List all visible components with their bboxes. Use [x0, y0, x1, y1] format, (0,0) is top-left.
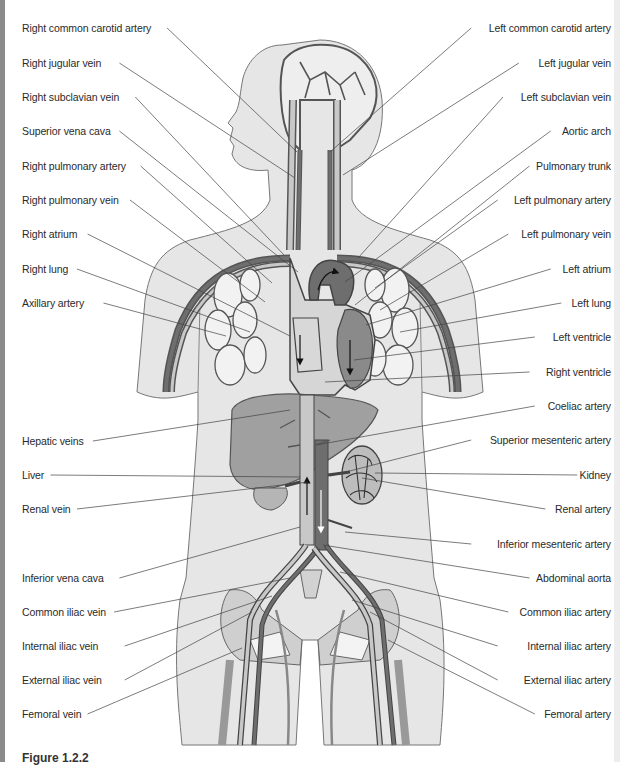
label-right-pulmonary-vein: Right pulmonary vein: [22, 194, 119, 206]
label-left-ventricle: Left ventricle: [553, 331, 611, 343]
label-left-pulmonary-artery: Left pulmonary artery: [514, 194, 611, 206]
label-right-atrium: Right atrium: [22, 228, 77, 240]
label-inferior-mesenteric-artery: Inferior mesenteric artery: [497, 538, 611, 550]
label-right-common-carotid-artery: Right common carotid artery: [22, 22, 151, 34]
label-internal-iliac-vein: Internal iliac vein: [22, 640, 98, 652]
label-inferior-vena-cava: Inferior vena cava: [22, 572, 104, 584]
label-right-subclavian-vein: Right subclavian vein: [22, 91, 119, 103]
label-kidney: Kidney: [579, 469, 611, 481]
label-abdominal-aorta: Abdominal aorta: [536, 572, 611, 584]
kidney: [342, 446, 382, 504]
figure-caption: Figure 1.2.2: [22, 751, 89, 765]
label-left-lung: Left lung: [572, 297, 611, 309]
label-femoral-artery: Femoral artery: [544, 708, 611, 720]
label-right-ventricle: Right ventricle: [546, 366, 611, 378]
label-left-subclavian-vein: Left subclavian vein: [521, 91, 611, 103]
label-liver: Liver: [22, 469, 44, 481]
label-right-jugular-vein: Right jugular vein: [22, 57, 101, 69]
label-common-iliac-vein: Common iliac vein: [22, 606, 106, 618]
label-superior-mesenteric-artery: Superior mesenteric artery: [490, 434, 611, 446]
label-renal-artery: Renal artery: [555, 503, 611, 515]
label-left-pulmonary-vein: Left pulmonary vein: [521, 228, 611, 240]
label-pulmonary-trunk: Pulmonary trunk: [536, 160, 611, 172]
label-right-pulmonary-artery: Right pulmonary artery: [22, 160, 126, 172]
label-renal-vein: Renal vein: [22, 503, 71, 515]
label-femoral-vein: Femoral vein: [22, 708, 82, 720]
label-axillary-artery: Axillary artery: [22, 297, 84, 309]
label-coeliac-artery: Coeliac artery: [548, 400, 611, 412]
label-superior-vena-cava: Superior vena cava: [22, 125, 111, 137]
label-hepatic-veins: Hepatic veins: [22, 435, 84, 447]
label-aortic-arch: Aortic arch: [562, 125, 611, 137]
label-left-jugular-vein: Left jugular vein: [539, 57, 611, 69]
label-left-common-carotid-artery: Left common carotid artery: [489, 22, 611, 34]
label-external-iliac-artery: External iliac artery: [524, 674, 611, 686]
label-left-atrium: Left atrium: [562, 263, 611, 275]
label-common-iliac-artery: Common iliac artery: [520, 606, 611, 618]
label-right-lung: Right lung: [22, 263, 68, 275]
label-internal-iliac-artery: Internal iliac artery: [527, 640, 611, 652]
label-external-iliac-vein: External iliac vein: [22, 674, 102, 686]
